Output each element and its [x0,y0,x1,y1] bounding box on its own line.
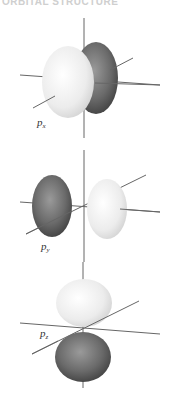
pz-y-axis-front [32,341,58,354]
pz-positive-lobe [56,279,112,327]
px-orbital: px [20,18,160,138]
orbital-diagram: px py pz [0,0,171,397]
pz-label: pz [39,327,49,341]
pz-orbital: pz [20,262,160,388]
py-label: py [40,240,51,254]
pz-negative-lobe [55,332,111,382]
py-orbital: py [20,150,160,262]
px-label: px [36,116,47,130]
px-positive-lobe [42,46,94,118]
